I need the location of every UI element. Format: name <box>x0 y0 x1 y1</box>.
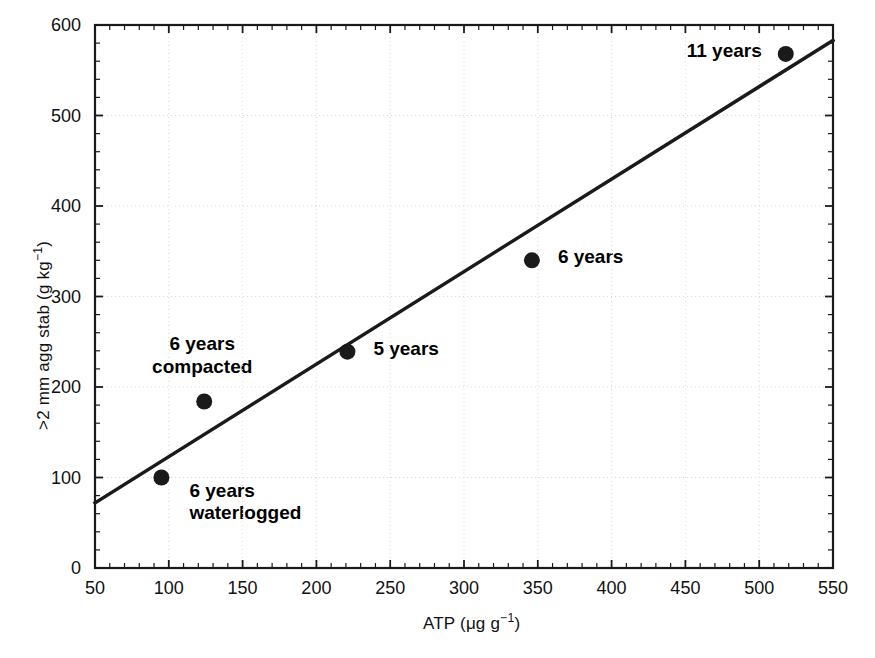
data-point <box>196 393 212 409</box>
data-point <box>524 252 540 268</box>
chart-figure: >2 mm agg stab (g kg−1) ATP (μg g−1) 010… <box>0 0 875 658</box>
data-point <box>153 470 169 486</box>
grid-lines <box>95 25 833 568</box>
data-point <box>339 344 355 360</box>
plot-canvas <box>0 0 875 658</box>
data-point <box>778 46 794 62</box>
